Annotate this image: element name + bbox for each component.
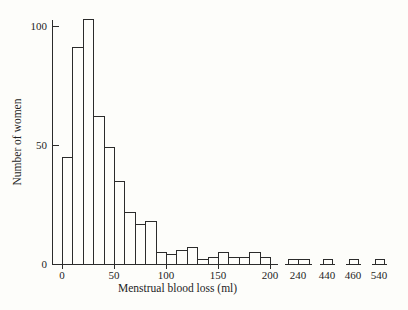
y-axis-tick bbox=[53, 145, 59, 146]
x-tick-label: 200 bbox=[255, 270, 285, 281]
y-axis-tick bbox=[53, 264, 59, 265]
histogram-bar bbox=[260, 257, 271, 265]
y-tick-label: 50 bbox=[20, 140, 47, 151]
outlier-bar bbox=[323, 259, 333, 265]
x-axis-tick bbox=[62, 265, 63, 269]
outlier-bar bbox=[375, 259, 385, 265]
x-axis-tick bbox=[114, 265, 115, 269]
x-tick-label: 0 bbox=[47, 270, 77, 281]
x-axis-title: Menstrual blood loss (ml) bbox=[118, 282, 237, 294]
x-tick-label: 150 bbox=[203, 270, 233, 281]
x-axis-tick bbox=[270, 265, 271, 269]
x-tick-label: 50 bbox=[99, 270, 129, 281]
outlier-bar bbox=[298, 259, 310, 265]
outlier-bar bbox=[349, 259, 359, 265]
y-axis-tick bbox=[53, 26, 59, 27]
x-axis-tick bbox=[166, 265, 167, 269]
broken-axis-label: 240 bbox=[283, 270, 313, 281]
y-tick-label: 100 bbox=[20, 21, 47, 32]
y-axis-line bbox=[52, 20, 53, 265]
x-axis-tick bbox=[218, 265, 219, 269]
y-tick-label: 0 bbox=[20, 259, 47, 270]
broken-axis-label: 540 bbox=[364, 270, 394, 281]
x-tick-label: 100 bbox=[151, 270, 181, 281]
histogram-figure: Number of women Menstrual blood loss (ml… bbox=[0, 0, 408, 310]
